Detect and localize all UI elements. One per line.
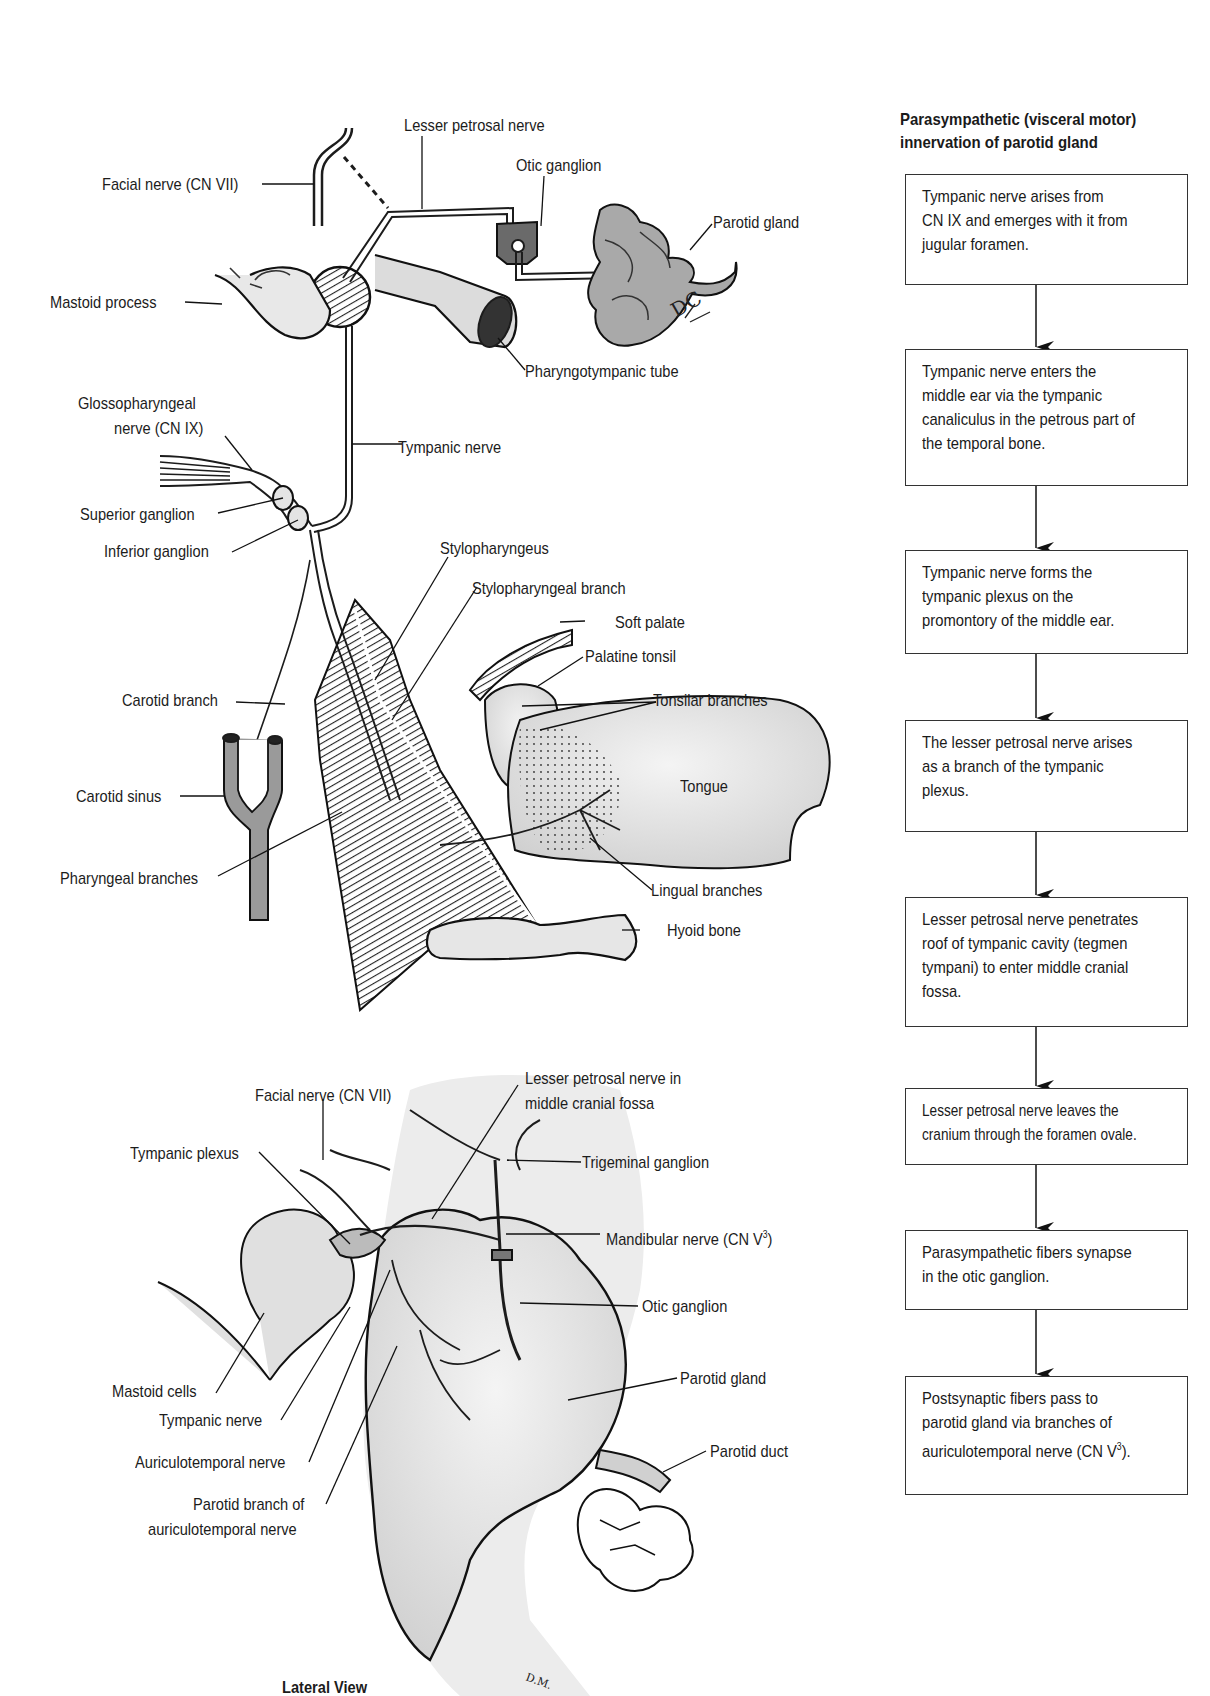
label-parotid-gland-lower: Parotid gland — [680, 1368, 766, 1389]
step-text: Lesser petrosal nerve penetrates roof of… — [922, 908, 1183, 1004]
label-glossopharyngeal-nerve-line2: nerve (CN IX) — [114, 418, 203, 439]
flowchart-step-4: The lesser petrosal nerve arises as a br… — [905, 720, 1188, 832]
label-parotid-branch-line1: Parotid branch of — [193, 1494, 304, 1515]
flowchart-step-6: Lesser petrosal nerve leaves the cranium… — [905, 1088, 1188, 1165]
label-glossopharyngeal-nerve-line1: Glossopharyngeal — [78, 393, 196, 414]
step-text: Tympanic nerve forms the tympanic plexus… — [922, 561, 1183, 633]
label-trigeminal-ganglion: Trigeminal ganglion — [582, 1152, 709, 1173]
flowchart-step-1: Tympanic nerve arises from CN IX and eme… — [905, 174, 1188, 285]
step-text-wrapper: Postsynaptic fibers pass to parotid glan… — [922, 1387, 1183, 1464]
label-lesser-petrosal-nerve: Lesser petrosal nerve — [404, 115, 545, 136]
label-lesser-petrosal-in-fossa-line2: middle cranial fossa — [525, 1093, 654, 1114]
label-mandibular-nerve: Mandibular nerve (CN V3) — [606, 1224, 772, 1250]
label-soft-palate: Soft palate — [615, 612, 685, 633]
flowchart-title: Parasympathetic (visceral motor) innerva… — [900, 108, 1136, 154]
flowchart-step-7: Parasympathetic fibers synapse in the ot… — [905, 1230, 1188, 1310]
label-inferior-ganglion: Inferior ganglion — [104, 541, 209, 562]
label-carotid-sinus: Carotid sinus — [76, 786, 161, 807]
label-tongue: Tongue — [680, 776, 728, 797]
label-stylopharyngeal-branch: Stylopharyngeal branch — [472, 578, 626, 599]
mandibular-nerve-close: ) — [768, 1230, 773, 1249]
step-text: Lesser petrosal nerve leaves the cranium… — [922, 1099, 1162, 1147]
step-text: Tympanic nerve arises from CN IX and eme… — [922, 185, 1183, 257]
label-tympanic-plexus: Tympanic plexus — [130, 1143, 239, 1164]
label-auriculotemporal-nerve: Auriculotemporal nerve — [135, 1452, 285, 1473]
mandibular-nerve-text: Mandibular nerve (CN V — [606, 1230, 763, 1249]
step-text: The lesser petrosal nerve arises as a br… — [922, 731, 1183, 803]
flowchart-step-5: Lesser petrosal nerve penetrates roof of… — [905, 897, 1188, 1027]
label-tympanic-nerve-lower: Tympanic nerve — [159, 1410, 262, 1431]
flowchart-step-3: Tympanic nerve forms the tympanic plexus… — [905, 550, 1188, 654]
step-text: Tympanic nerve enters the middle ear via… — [922, 360, 1183, 456]
view-caption: Lateral View — [282, 1677, 367, 1696]
step-text: Postsynaptic fibers pass to parotid glan… — [922, 1389, 1117, 1461]
label-mastoid-cells: Mastoid cells — [112, 1381, 197, 1402]
label-otic-ganglion-lower: Otic ganglion — [642, 1296, 727, 1317]
label-parotid-branch-line2: auriculotemporal nerve — [148, 1519, 297, 1540]
flowchart-step-8: Postsynaptic fibers pass to parotid glan… — [905, 1376, 1188, 1495]
label-palatine-tonsil: Palatine tonsil — [585, 646, 676, 667]
label-lesser-petrosal-in-fossa-line1: Lesser petrosal nerve in — [525, 1068, 681, 1089]
label-carotid-branch: Carotid branch — [122, 690, 218, 711]
label-parotid-gland: Parotid gland — [713, 212, 799, 233]
label-facial-nerve: Facial nerve (CN VII) — [102, 174, 238, 195]
upper-diagram-art: DC — [160, 128, 830, 1010]
label-parotid-duct: Parotid duct — [710, 1441, 788, 1462]
label-stylopharyngeus: Stylopharyngeus — [440, 538, 549, 559]
label-facial-nerve-lower: Facial nerve (CN VII) — [255, 1085, 391, 1106]
flowchart-step-2: Tympanic nerve enters the middle ear via… — [905, 349, 1188, 486]
label-hyoid-bone: Hyoid bone — [667, 920, 741, 941]
label-pharyngeal-branches: Pharyngeal branches — [60, 868, 198, 889]
label-otic-ganglion: Otic ganglion — [516, 155, 601, 176]
label-lingual-branches: Lingual branches — [651, 880, 762, 901]
label-tonsilar-branches: Tonsilar branches — [653, 690, 768, 711]
step-text-end: ). — [1122, 1442, 1131, 1461]
label-mastoid-process: Mastoid process — [50, 292, 156, 313]
label-superior-ganglion: Superior ganglion — [80, 504, 195, 525]
label-tympanic-nerve: Tympanic nerve — [398, 437, 501, 458]
label-pharyngotympanic-tube: Pharyngotympanic tube — [525, 361, 679, 382]
step-text: Parasympathetic fibers synapse in the ot… — [922, 1241, 1183, 1289]
